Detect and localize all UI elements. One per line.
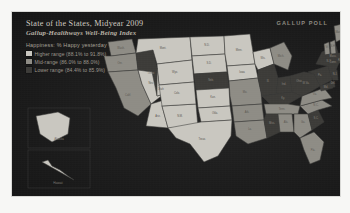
legend-label-lower: Lower range (84.4% to 85.9%) (35, 67, 106, 73)
state-nh (330, 40, 336, 54)
state-ks (196, 88, 230, 108)
legend: Happiness: % Happy yesterday Higher rang… (26, 42, 107, 75)
state-tn (264, 104, 300, 114)
state-co (159, 82, 196, 106)
state-nj (332, 70, 338, 80)
state-fl (300, 132, 324, 164)
state-in (276, 76, 292, 94)
state-mo (229, 78, 262, 106)
state-sd (192, 54, 227, 74)
state-la (234, 120, 267, 144)
page-subtitle: Gallup-Healthways Well-Being Index (26, 29, 136, 36)
state-ri (338, 59, 340, 63)
legend-swatch-mid (26, 59, 32, 65)
legend-label-higher: Higher range (88.1% to 91.8%) (35, 51, 107, 57)
screenshot-stage: Wash.Ore.Calif.Nev.IdahoMont.Wyo.UtahAri… (0, 0, 350, 213)
state-mn (224, 34, 255, 66)
state-ak (36, 112, 70, 142)
state-tx (168, 120, 232, 162)
choropleth-map: Wash.Ore.Calif.Nev.IdahoMont.Wyo.UtahAri… (12, 12, 340, 196)
gallup-poll-brand: GALLUP POLL (277, 20, 328, 26)
legend-swatch-higher (26, 51, 32, 57)
map-svg: Wash.Ore.Calif.Nev.IdahoMont.Wyo.UtahAri… (12, 12, 340, 196)
state-ct (328, 60, 338, 65)
state-ms (264, 114, 280, 138)
legend-swatch-lower (26, 67, 32, 73)
state-il (258, 64, 278, 96)
state-or (104, 53, 138, 72)
state-wy (157, 60, 194, 85)
legend-item-higher: Higher range (88.1% to 91.8%) (26, 51, 107, 57)
state-ok (198, 106, 232, 122)
infographic-panel: Wash.Ore.Calif.Nev.IdahoMont.Wyo.UtahAri… (12, 12, 340, 196)
state-vt (324, 42, 330, 55)
state-al (278, 114, 294, 132)
page-title: State of the States, Midyear 2009 (26, 19, 143, 28)
state-ne (194, 72, 229, 90)
legend-title: Happiness: % Happy yesterday (26, 42, 107, 48)
inset-label-alaska: Alaska (54, 137, 64, 141)
legend-label-mid: Mid-range (86.0% to 88.0%) (35, 59, 100, 65)
legend-item-mid: Mid-range (86.0% to 88.0%) (26, 59, 107, 65)
state-hi (42, 160, 74, 180)
inset-label-hawaii: Hawaii (53, 181, 63, 185)
legend-item-lower: Lower range (84.4% to 85.9%) (26, 67, 107, 73)
state-ar (232, 104, 264, 122)
state-me (334, 24, 340, 42)
state-nd (190, 36, 225, 56)
